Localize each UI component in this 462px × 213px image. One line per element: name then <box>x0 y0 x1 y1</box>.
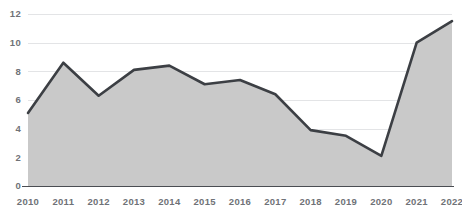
x-axis-tick-label: 2010 <box>17 196 39 207</box>
y-axis-tick-label: 10 <box>10 37 21 48</box>
chart-container: 024681012 201020112012201320142015201620… <box>0 0 462 213</box>
x-axis-tick-label: 2015 <box>193 196 216 207</box>
series-area-fill <box>28 21 452 186</box>
x-axis-tick-label: 2018 <box>299 196 321 207</box>
x-axis-tick-label: 2019 <box>335 196 357 207</box>
y-axis-tick-label: 12 <box>10 8 21 19</box>
x-axis-tick-label: 2014 <box>158 196 181 207</box>
x-axis-tick-label: 2017 <box>264 196 286 207</box>
x-tick-labels-group: 2010201120122013201420152016201720182019… <box>17 196 462 207</box>
area-chart: 024681012 201020112012201320142015201620… <box>0 0 462 213</box>
x-axis-tick-label: 2021 <box>405 196 428 207</box>
y-axis-tick-label: 0 <box>15 180 21 191</box>
x-axis-tick-label: 2020 <box>370 196 392 207</box>
x-axis-tick-label: 2013 <box>123 196 145 207</box>
x-axis-tick-label: 2022 <box>441 196 462 207</box>
x-axis-tick-label: 2011 <box>52 196 74 207</box>
y-tick-labels-group: 024681012 <box>10 8 22 191</box>
y-axis-tick-label: 8 <box>15 66 21 77</box>
y-axis-tick-label: 6 <box>15 94 21 105</box>
x-axis-tick-label: 2012 <box>87 196 109 207</box>
y-axis-tick-label: 4 <box>15 123 21 134</box>
x-axis-tick-label: 2016 <box>229 196 251 207</box>
plot-area <box>28 21 452 186</box>
y-axis-tick-label: 2 <box>15 152 21 163</box>
